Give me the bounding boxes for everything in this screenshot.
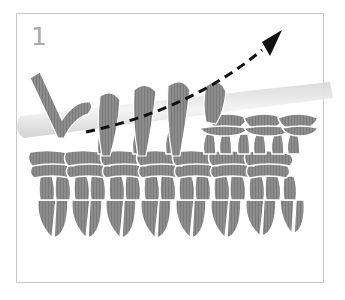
middle-posts [39, 176, 297, 200]
crochet-illustration [0, 0, 345, 300]
bottom-row [38, 200, 305, 238]
chain-row [28, 150, 293, 178]
